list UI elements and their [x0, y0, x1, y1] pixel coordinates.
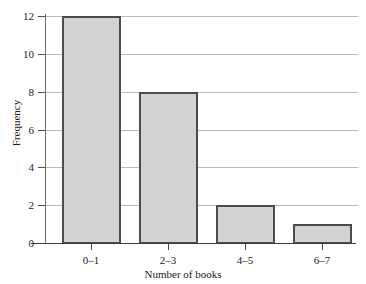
bar-6-7: [293, 224, 352, 244]
x-tick-6-7: [322, 244, 323, 250]
x-tick-label-0-1: 0–1: [61, 254, 121, 266]
x-axis-line: [31, 243, 356, 244]
y-tick-label-12: 12: [6, 11, 34, 22]
bar-2-3: [139, 92, 198, 244]
x-axis-title: Number of books: [0, 268, 366, 280]
x-tick-label-2-3: 2–3: [138, 254, 198, 266]
y-tick-label-10: 10: [6, 49, 34, 60]
y-tick-8: [38, 92, 45, 93]
y-tick-2: [38, 205, 45, 206]
y-tick-10: [38, 54, 45, 55]
y-axis-line: [45, 14, 46, 244]
histogram-chart: 12 10 8 6 4 2 0 0–1 2–3 4–5 6–7 Number o…: [0, 0, 366, 284]
y-tick-12: [38, 16, 45, 17]
y-tick-4: [38, 167, 45, 168]
y-tick-label-0: 0: [6, 238, 34, 249]
x-tick-label-4-5: 4–5: [215, 254, 275, 266]
x-tick-4-5: [245, 244, 246, 250]
y-tick-label-2: 2: [6, 200, 34, 211]
bar-0-1: [62, 16, 121, 244]
x-tick-2-3: [168, 244, 169, 250]
y-tick-6: [38, 130, 45, 131]
x-tick-label-6-7: 6–7: [292, 254, 352, 266]
bar-4-5: [216, 205, 275, 244]
y-axis-title: Frequency: [10, 68, 22, 178]
x-tick-0-1: [91, 244, 92, 250]
